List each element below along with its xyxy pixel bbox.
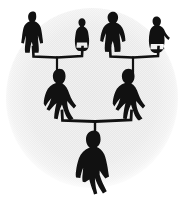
family-tree-canvas — [0, 0, 185, 200]
family-tree-figure: A family tree drawn as solid black human… — [0, 0, 185, 200]
